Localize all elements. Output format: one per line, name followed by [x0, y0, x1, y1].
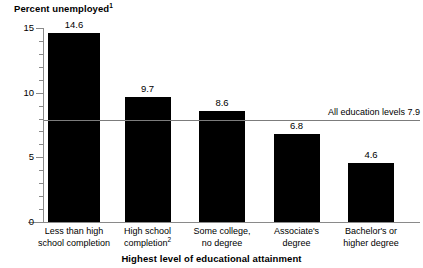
x-axis-line — [28, 222, 420, 223]
category-label-line: Bachelor's or — [326, 226, 416, 238]
bar-value-label: 9.7 — [111, 83, 185, 94]
y-axis-major-tick — [36, 157, 44, 158]
y-axis-title-footnote: 1 — [109, 2, 113, 9]
bar — [125, 97, 171, 222]
x-axis-title: Highest level of educational attainment — [0, 253, 423, 264]
category-label-line: higher degree — [326, 238, 416, 250]
y-axis-title: Percent unemployed1 — [14, 3, 113, 14]
y-axis-minor-tick — [39, 106, 44, 107]
reference-line-label: All education levels 7.9 — [328, 107, 420, 117]
y-axis-line — [43, 28, 44, 223]
x-axis-category-label: Bachelor's orhigher degree — [326, 226, 416, 249]
y-axis-minor-tick — [39, 209, 44, 210]
bar — [48, 33, 100, 222]
y-axis-minor-tick — [39, 196, 44, 197]
y-axis-major-tick — [36, 93, 44, 94]
y-axis-major-tick — [36, 222, 44, 223]
reference-line — [44, 120, 420, 121]
y-axis-minor-tick — [39, 67, 44, 68]
unemployment-by-education-bar-chart: Percent unemployed1 051015 14.69.78.66.8… — [0, 0, 423, 268]
bar — [199, 111, 245, 222]
y-axis-title-text: Percent unemployed — [14, 3, 109, 14]
category-label-footnote: 2 — [167, 236, 171, 243]
bar-value-label: 4.6 — [334, 149, 408, 160]
y-axis-minor-tick — [39, 131, 44, 132]
bar — [348, 163, 394, 222]
bar-value-label: 14.6 — [34, 19, 114, 30]
bar-value-label: 8.6 — [185, 97, 259, 108]
bar-value-label: 6.8 — [260, 120, 334, 131]
y-axis-tick-label: 5 — [4, 151, 34, 162]
y-axis-tick-label: 10 — [4, 87, 34, 98]
bar — [274, 134, 320, 222]
y-axis-minor-tick — [39, 144, 44, 145]
y-axis-minor-tick — [39, 41, 44, 42]
y-axis-minor-tick — [39, 80, 44, 81]
y-axis-minor-tick — [39, 54, 44, 55]
y-axis-tick-label: 15 — [4, 22, 34, 33]
y-axis-minor-tick — [39, 183, 44, 184]
y-axis-minor-tick — [39, 170, 44, 171]
